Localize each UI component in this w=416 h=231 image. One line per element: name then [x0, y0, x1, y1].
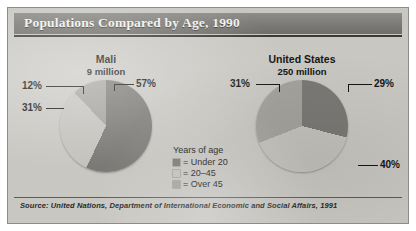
slice-label-us-age20-45: 40%: [380, 159, 400, 170]
chart-name-united-states: United States: [268, 53, 335, 65]
chart-heading-united-states: United States 250 million: [246, 54, 358, 77]
legend-item-over45: = Over 45: [173, 179, 259, 189]
legend-swatch-age20-45: [173, 170, 180, 177]
pie-chart-mali: [60, 80, 152, 172]
legend-label-over45: = Over 45: [183, 179, 223, 189]
leader-line-us-under20: [348, 84, 372, 85]
leader-line-mali-over45: [46, 86, 84, 87]
source-note: Source: United Nations, Department of In…: [20, 201, 337, 210]
leader-tick-us-under20: [348, 84, 349, 92]
leader-tick-mali-over45: [83, 86, 84, 94]
legend-label-age20-45: = 20–45: [183, 168, 216, 178]
legend-label-under20: = Under 20: [183, 157, 228, 167]
leader-line-mali-under20: [114, 84, 134, 85]
slice-label-mali-under20: 57%: [136, 78, 156, 89]
legend-swatch-under20: [173, 159, 180, 166]
chart-name-mali: Mali: [96, 53, 116, 65]
slice-label-mali-over45: 12%: [22, 80, 42, 91]
slice-label-mali-age20-45: 31%: [22, 102, 42, 113]
pie-chart-united-states: [256, 80, 348, 172]
slice-label-us-under20: 29%: [374, 78, 394, 89]
leader-line-us-over45: [256, 84, 280, 85]
leader-line-us-age20-45: [358, 165, 378, 166]
chart-population-united-states: 250 million: [246, 66, 358, 78]
chart-heading-mali: Mali 9 million: [60, 54, 152, 77]
title-bar: Populations Compared by Age, 1990: [14, 13, 402, 34]
title-divider: [14, 35, 402, 37]
chart-population-mali: 9 million: [60, 66, 152, 78]
footer-divider: [14, 197, 402, 198]
legend-swatch-over45: [173, 181, 180, 188]
leader-tick-us-over45: [279, 84, 280, 92]
legend-item-under20: = Under 20: [173, 157, 259, 167]
page-title: Populations Compared by Age, 1990: [24, 15, 240, 31]
figure-panel: Populations Compared by Age, 1990 Mali 9…: [8, 8, 408, 223]
leader-tick-mali-under20: [114, 84, 115, 91]
legend-item-age20-45: = 20–45: [173, 168, 259, 178]
slice-label-us-over45: 31%: [230, 78, 250, 89]
legend: Years of age = Under 20 = 20–45 = Over 4…: [173, 145, 259, 190]
legend-title: Years of age: [173, 145, 259, 155]
leader-line-mali-age20-45: [46, 108, 64, 109]
